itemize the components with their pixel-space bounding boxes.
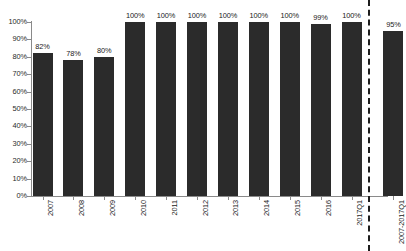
- bar-value-label: 100%: [250, 11, 269, 20]
- y-axis-tick-label: 90%: [1, 35, 27, 43]
- x-axis-line: [31, 196, 388, 197]
- bar-value-label: 95%: [386, 20, 401, 29]
- bar-item: 82%: [33, 53, 53, 196]
- y-axis-tick: [27, 92, 32, 93]
- x-axis-tick: [43, 196, 44, 200]
- x-axis-label: 2016: [324, 200, 333, 216]
- bar-item: 99%: [311, 24, 331, 196]
- x-axis-label: 2017Q1: [355, 200, 364, 226]
- bar: [63, 60, 83, 196]
- x-axis-tick: [166, 196, 167, 200]
- x-axis-tick: [135, 196, 136, 200]
- bar: [156, 22, 176, 196]
- bar-item: 100%: [156, 22, 176, 196]
- bar: [342, 22, 362, 196]
- bar: [33, 53, 53, 196]
- x-axis-label: 2011: [170, 200, 179, 216]
- bar-item: 95%: [383, 31, 403, 196]
- x-axis-label: 2013: [231, 200, 240, 216]
- bar-value-label: 100%: [342, 11, 361, 20]
- bar: [218, 22, 238, 196]
- x-axis-label: 2008: [77, 200, 86, 216]
- bar-item: 100%: [125, 22, 145, 196]
- y-axis-tick-label: 70%: [1, 70, 27, 78]
- y-axis-tick-label: 20%: [1, 157, 27, 165]
- y-axis-tick-label: 0%: [1, 192, 27, 200]
- bar: [94, 57, 114, 196]
- y-axis-tick: [27, 144, 32, 145]
- y-axis-tick: [27, 179, 32, 180]
- x-axis-label: 2012: [201, 200, 210, 216]
- bar: [311, 24, 331, 196]
- bar-item: 100%: [342, 22, 362, 196]
- bar-value-label: 100%: [188, 11, 207, 20]
- x-axis-tick: [290, 196, 291, 200]
- bar: [125, 22, 145, 196]
- y-axis-tick-label: 60%: [1, 88, 27, 96]
- bar: [249, 22, 269, 196]
- bar-item: 100%: [280, 22, 300, 196]
- y-axis-tick: [27, 74, 32, 75]
- x-axis-tick: [259, 196, 260, 200]
- y-axis-tick-label: 30%: [1, 140, 27, 148]
- bar-value-label: 100%: [157, 11, 176, 20]
- x-axis-label: 2015: [293, 200, 302, 216]
- y-axis-tick: [27, 109, 32, 110]
- bar-item: 100%: [249, 22, 269, 196]
- y-axis-tick: [27, 126, 32, 127]
- bar-item: 78%: [63, 60, 83, 196]
- y-axis-tick-label: 40%: [1, 122, 27, 130]
- x-axis-tick: [352, 196, 353, 200]
- bar-item: 100%: [218, 22, 238, 196]
- x-axis-label: 2009: [108, 200, 117, 216]
- y-axis-tick-label: 100%: [1, 18, 27, 26]
- x-axis-label: 2010: [139, 200, 148, 216]
- bar: [187, 22, 207, 196]
- x-axis-tick: [197, 196, 198, 200]
- x-axis-label: 2007: [46, 200, 55, 216]
- bar: [280, 22, 300, 196]
- bar: [383, 31, 403, 196]
- x-axis-tick: [104, 196, 105, 200]
- y-axis-tick-label: 80%: [1, 53, 27, 61]
- bar-value-label: 100%: [126, 11, 145, 20]
- total-separator-line: [368, 0, 370, 251]
- y-axis-tick: [27, 22, 32, 23]
- x-axis-label: 2014: [262, 200, 271, 216]
- y-axis-tick: [27, 196, 32, 197]
- x-axis-tick: [321, 196, 322, 200]
- bar-value-label: 99%: [313, 13, 328, 22]
- x-axis-tick: [73, 196, 74, 200]
- y-axis-tick: [27, 39, 32, 40]
- bar-value-label: 100%: [280, 11, 299, 20]
- bar-item: 80%: [94, 57, 114, 196]
- y-axis-tick: [27, 57, 32, 58]
- x-axis-tick: [393, 196, 394, 200]
- bar-value-label: 82%: [35, 42, 50, 51]
- y-axis-tick-label: 10%: [1, 175, 27, 183]
- bar-item: 100%: [187, 22, 207, 196]
- x-axis-label: 2007-2017Q1: [397, 200, 406, 244]
- x-axis-tick: [228, 196, 229, 200]
- bar-value-label: 78%: [66, 49, 81, 58]
- bar-value-label: 80%: [97, 46, 112, 55]
- y-axis-tick: [27, 161, 32, 162]
- y-axis-tick-label: 50%: [1, 105, 27, 113]
- bar-value-label: 100%: [219, 11, 238, 20]
